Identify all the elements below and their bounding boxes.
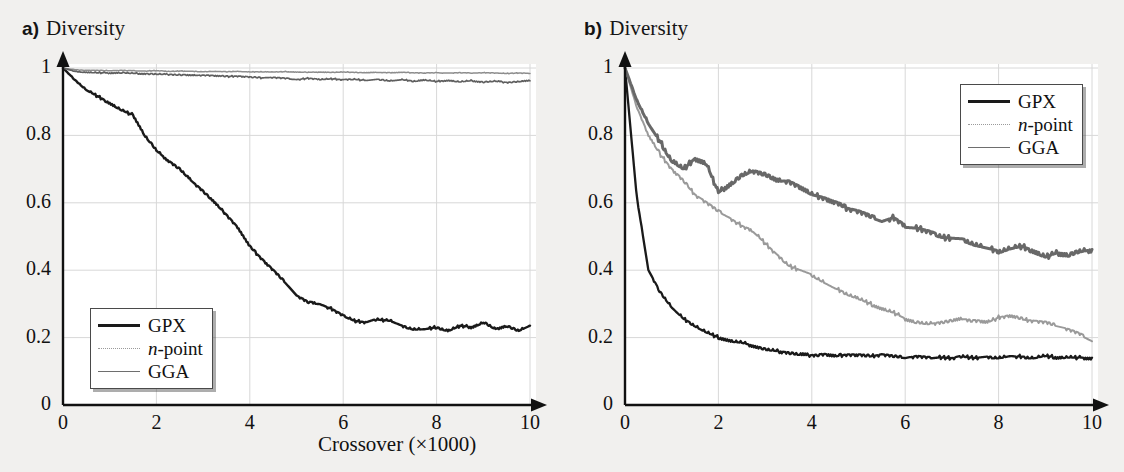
chart-panel-b: b)Diversity Crossover (×1000) GPXn-point… [562,0,1124,472]
y-tick-label-b-3: 0.6 [562,190,613,213]
y-tick-label-b-1: 0.2 [562,325,613,348]
legend-swatch-icon-gpx [98,320,140,332]
legend-label--point: n-point [1018,115,1073,134]
legend-row-b-0: GPX [968,90,1073,113]
x-tick-label-b-3: 6 [880,411,930,434]
legend-label--point: n-point [148,339,203,358]
legend-row-a-2: GGA [98,360,203,383]
legend-row-a-1: n-point [98,337,203,360]
panel-a-legend: GPXn-pointGGA [90,308,213,389]
legend-label-gpx: GPX [148,316,186,335]
legend-swatch-icon-gpx [968,96,1010,108]
x-tick-label-a-1: 2 [131,411,181,434]
legend-row-a-0: GPX [98,314,203,337]
chart-panel-a: a)Diversity Crossover (×1000) GPXn-point… [0,0,562,472]
legend-label-gga: GGA [1018,138,1059,157]
y-tick-label-a-1: 0.2 [0,325,51,348]
figure-canvas: a)Diversity Crossover (×1000) GPXn-point… [0,0,1124,472]
x-tick-label-b-1: 2 [693,411,743,434]
panel-a-xaxis-title: Crossover (×1000) [318,432,476,457]
legend-swatch-icon-gga [98,366,140,378]
legend-swatch-icon-gga [968,142,1010,154]
legend-label-gpx: GPX [1018,92,1056,111]
x-tick-label-a-2: 4 [225,411,275,434]
y-tick-label-a-5: 1 [0,55,51,78]
legend-swatch-icon--point [98,343,140,355]
y-tick-label-b-2: 0.4 [562,257,613,280]
x-tick-label-a-0: 0 [38,411,88,434]
panel-a-plot-area [0,0,562,472]
x-tick-label-b-2: 4 [787,411,837,434]
x-tick-label-b-5: 10 [1067,411,1117,434]
panel-b-legend: GPXn-pointGGA [960,84,1083,165]
legend-row-b-2: GGA [968,136,1073,159]
x-tick-label-b-4: 8 [974,411,1024,434]
y-tick-label-b-5: 1 [562,55,613,78]
legend-label-gga: GGA [148,362,189,381]
x-tick-label-a-5: 10 [505,411,555,434]
x-tick-label-a-4: 8 [412,411,462,434]
legend-swatch-icon--point [968,119,1010,131]
x-tick-label-b-0: 0 [600,411,650,434]
y-tick-label-a-3: 0.6 [0,190,51,213]
x-tick-label-a-3: 6 [318,411,368,434]
panel-b-plot-area [562,0,1124,472]
legend-row-b-1: n-point [968,113,1073,136]
y-tick-label-b-4: 0.8 [562,122,613,145]
y-tick-label-a-4: 0.8 [0,122,51,145]
y-tick-label-a-2: 0.4 [0,257,51,280]
